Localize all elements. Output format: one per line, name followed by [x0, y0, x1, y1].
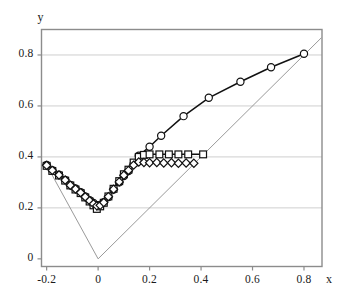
reference-line-left-diagonal — [47, 165, 98, 259]
marker-square — [175, 151, 182, 158]
y-tick-label: 0.8 — [0, 47, 34, 59]
marker-circle — [237, 78, 244, 85]
marker-circle — [205, 94, 212, 101]
marker-square — [185, 151, 192, 158]
x-tick-label: 0.8 — [274, 273, 334, 285]
y-tick-label: 0.2 — [0, 200, 34, 212]
y-axis-title: y — [38, 10, 44, 25]
marker-diamond — [174, 159, 182, 167]
marker-diamond — [190, 159, 198, 167]
reference-line-identity-diagonal — [98, 38, 321, 259]
marker-circle — [180, 113, 187, 120]
marker-circle — [158, 132, 165, 139]
series-markers — [43, 50, 308, 212]
marker-diamond — [182, 159, 190, 167]
y-tick-label: 0.6 — [0, 98, 34, 110]
marker-circle — [300, 50, 307, 57]
marker-diamond — [160, 159, 168, 167]
plot-border — [42, 30, 323, 267]
reference-lines — [47, 38, 322, 259]
marker-circle — [267, 64, 274, 71]
y-tick-label: 0 — [0, 251, 34, 263]
marker-square — [200, 151, 207, 158]
marker-square — [146, 151, 153, 158]
series-lines — [47, 54, 304, 209]
marker-square — [165, 151, 172, 158]
gridlines — [42, 55, 323, 208]
axis-frame — [42, 30, 323, 267]
marker-square — [156, 151, 163, 158]
chart-figure: y x -0.200.20.40.60.8 00.20.40.60.8 — [0, 0, 342, 304]
marker-circle — [146, 143, 153, 150]
plot-canvas — [0, 0, 342, 304]
y-tick-label: 0.4 — [0, 149, 34, 161]
